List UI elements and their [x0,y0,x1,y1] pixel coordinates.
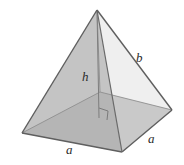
pyramid-figure: h b a a [0,0,184,165]
slant-edge-label: b [136,51,143,64]
base-edge-right-label: a [148,132,155,145]
base-edge-front-label: a [66,143,73,156]
pyramid-diagram [0,0,184,165]
height-label: h [82,70,89,83]
